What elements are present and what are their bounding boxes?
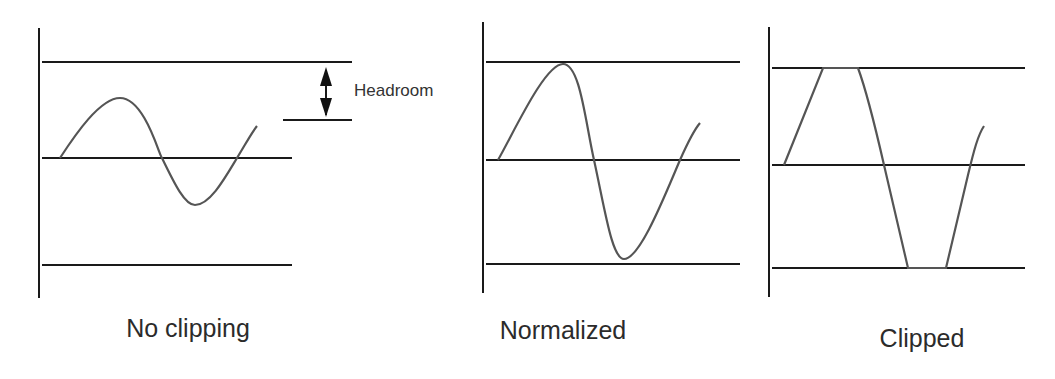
double-arrow-icon (320, 67, 332, 117)
headroom-label: Headroom (354, 81, 433, 101)
panel-clipped (769, 27, 1025, 297)
clipped-wave (784, 68, 984, 268)
panel-no-clipping (39, 28, 352, 298)
panel-label-no-clipping: No clipping (126, 314, 250, 343)
panel-normalized (483, 22, 740, 293)
panel-label-clipped: Clipped (880, 324, 965, 353)
sine-wave (60, 98, 257, 205)
panel-label-normalized: Normalized (500, 316, 626, 345)
sine-wave (498, 64, 700, 259)
